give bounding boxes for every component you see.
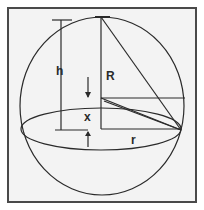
label-x: x <box>84 110 91 124</box>
label-R: R <box>106 69 115 83</box>
diagram-frame <box>8 8 196 202</box>
label-h: h <box>56 64 63 78</box>
sphere-diagram: h R x r <box>0 0 204 210</box>
label-r: r <box>131 133 136 147</box>
